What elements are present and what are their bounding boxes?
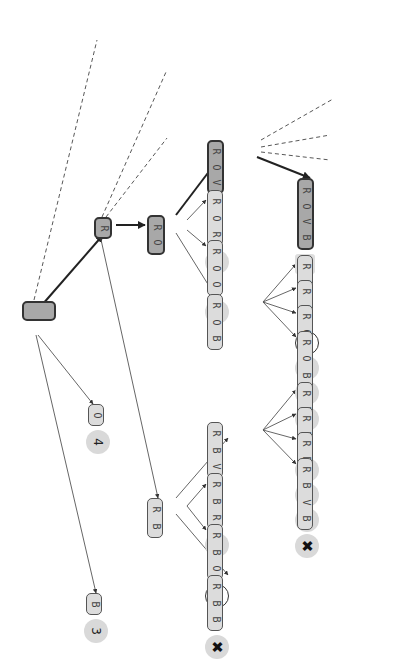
tree-edge [187,230,206,246]
tree-edge [187,200,206,220]
tree-node-rbvb: RBVB [297,458,313,530]
node-letter: R [210,533,221,539]
node-letter: V [300,219,311,225]
node-letter: B [210,600,221,606]
node-letter: R [300,289,311,295]
node-letter: B [300,483,311,489]
tree-node-rbo: RBO [207,524,223,580]
node-letter: R [210,249,221,255]
node-letter: O [300,203,311,209]
node-letter: R [300,441,311,447]
tree-node-o: O [88,404,104,426]
dashed-edge [34,40,97,300]
dashed-edge [102,72,166,217]
node-letter: V [210,463,221,469]
node-letter: R [98,225,109,231]
tree-node-rovb: ROVB [297,178,314,250]
node-letter: R [210,584,221,590]
node-letter: O [91,412,102,418]
node-letter: R [210,199,221,205]
node-letter: R [300,340,311,346]
node-letter: O [210,265,221,271]
node-letter: R [150,507,161,513]
tree-edge [187,484,206,506]
tree-node-rbr: RBR [207,473,223,529]
node-letter: B [210,549,221,555]
tree-edge [36,335,96,593]
tree-node-rob: ROB [207,294,223,350]
dashed-edge [261,152,330,160]
tree-node-ror: ROR [207,190,223,246]
tree-node-roo: ROO [207,240,223,296]
node-letter: R [300,391,311,397]
node-letter: O [210,319,221,325]
node-letter: R [210,514,221,520]
fail-x-icon: ✖ [205,635,229,659]
tree-node-rov: ROV [207,140,224,194]
node-letter: R [300,187,311,193]
node-letter: R [210,482,221,488]
node-letter: R [300,264,311,270]
node-letter: B [210,447,221,453]
node-letter: B [300,372,311,378]
node-letter: B [210,498,221,504]
node-letter: R [151,224,162,230]
tree-node-ro: RO [147,215,165,255]
tree-edge [38,335,93,404]
tree-edge [263,288,296,302]
tree-node-rbv: RBV [207,422,223,478]
node-letter: B [89,601,100,607]
node-letter: R [210,431,221,437]
node-letter: O [210,215,221,221]
fail-x-icon: ✖ [295,534,319,558]
solution-path-edge [42,235,103,305]
node-letter: V [300,499,311,505]
node-letter: B [210,335,221,341]
node-letter: O [210,565,221,571]
tree-node-rb: RB [147,498,163,538]
tree-edge [263,264,296,302]
tree-edge [263,390,296,430]
node-letter: R [300,314,311,320]
tree-node-b: B [86,593,102,615]
node-letter: O [210,281,221,287]
node-letter: R [300,416,311,422]
node-letter: R [210,231,221,237]
node-letter: R [210,149,221,155]
tree-node-r: R [94,217,112,239]
node-letter: R [210,303,221,309]
node-letter: O [210,164,221,170]
dashed-edge [261,99,333,140]
node-letter: B [150,523,161,529]
tree-edge [100,235,158,498]
node-letter: B [210,616,221,622]
tree-edge [263,414,296,430]
dashed-edge [261,135,330,147]
tree-node-root [22,301,56,321]
solution-path-edge [257,157,310,178]
tree-edge [187,506,206,530]
score-badge: 4 [86,430,110,454]
score-badge: 3 [84,619,108,643]
node-letter: B [300,235,311,241]
tree-node-rbb: RBB [207,575,223,631]
node-letter: O [151,240,162,246]
node-letter: B [300,515,311,521]
node-letter: V [210,179,221,185]
tree-edge [263,430,296,464]
node-letter: R [300,467,311,473]
dashed-edge [106,138,167,217]
node-letter: O [300,356,311,362]
